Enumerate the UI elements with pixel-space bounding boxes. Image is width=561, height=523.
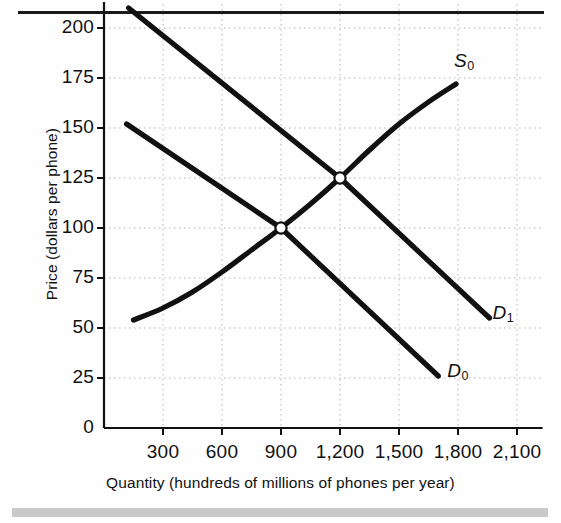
- y-tick-label-200: 200: [20, 16, 94, 38]
- y-tick-label-175: 175: [20, 66, 94, 88]
- curve-label-subscript: 0: [461, 369, 468, 383]
- curve-label-s0: S0: [454, 50, 474, 73]
- y-tick-label-100: 100: [20, 216, 94, 238]
- y-tick-label-0: 0: [20, 416, 94, 438]
- x-tick-label-2100: 2,100: [477, 441, 557, 463]
- curve-label-d1: D1: [492, 302, 513, 325]
- curve-label-subscript: 1: [507, 311, 514, 325]
- y-tick-label-75: 75: [20, 266, 94, 288]
- y-tick-label-125: 125: [20, 166, 94, 188]
- figure-bottom-band: [12, 508, 548, 517]
- figure-container: Price (dollars per phone) 02550751001251…: [0, 0, 561, 523]
- curve-label-text: D: [492, 302, 506, 323]
- y-tick-label-150: 150: [20, 116, 94, 138]
- x-axis-title: Quantity (hundreds of millions of phones…: [0, 474, 561, 492]
- curve-d0: [127, 124, 439, 376]
- y-tick-label-50: 50: [20, 316, 94, 338]
- curve-label-d0: D0: [447, 360, 468, 383]
- curve-label-text: D: [447, 360, 461, 381]
- curve-label-text: S: [454, 50, 467, 71]
- equilibrium-initial-marker: [275, 222, 286, 233]
- equilibrium-new-marker: [334, 172, 345, 183]
- curve-label-subscript: 0: [467, 59, 474, 73]
- y-tick-label-25: 25: [20, 366, 94, 388]
- curve-s0: [134, 84, 457, 320]
